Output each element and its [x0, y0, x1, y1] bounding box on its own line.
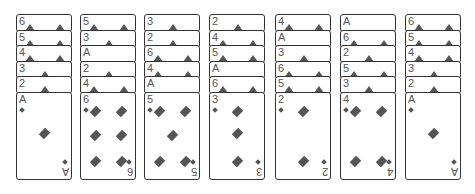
diamond-pip-icon [428, 127, 439, 138]
card-face-up[interactable]: 44 [340, 92, 396, 180]
card-rank: 4 [343, 93, 349, 106]
card-rank: 2 [147, 31, 153, 44]
diamond-pip-icon [350, 155, 361, 166]
diamond-pip-icon [90, 129, 101, 140]
diamond-pip-icon [376, 105, 387, 116]
diamond-pip-icon [167, 129, 178, 140]
diamond-pip-icon [232, 155, 243, 166]
card-rank: 2 [19, 77, 25, 90]
tableau-column-5[interactable]: 4A36522 [275, 14, 331, 180]
card-rank: 2 [278, 93, 284, 106]
diamond-pip-icon [116, 129, 127, 140]
card-face-up[interactable]: 55 [144, 92, 200, 180]
diamond-suit-icon [408, 107, 414, 113]
diamond-pip-icon [90, 155, 101, 166]
card-face-up[interactable]: 66 [80, 92, 136, 180]
card-rank: A [83, 46, 90, 59]
card-rank: 2 [408, 77, 414, 90]
card-rank: 3 [19, 62, 25, 75]
diamond-pip-icon [350, 105, 361, 116]
diamond-pip-icon [232, 105, 243, 116]
card-rank: 2 [212, 15, 218, 28]
card-rank-inverted: 3 [256, 166, 262, 177]
diamond-pip-icon [116, 105, 127, 116]
card-rank: A [19, 93, 26, 106]
diamond-pip-icon [90, 105, 101, 116]
diamond-suit-icon [190, 159, 196, 165]
card-rank-inverted: 6 [127, 166, 133, 177]
diamond-suit-icon [147, 107, 153, 113]
card-rank: 5 [147, 93, 153, 106]
tableau-column-1[interactable]: 65432AA [16, 14, 72, 180]
card-face-up[interactable]: AA [16, 92, 72, 180]
card-rank: A [278, 31, 285, 44]
diamond-suit-icon [386, 159, 392, 165]
card-face-up[interactable]: 22 [275, 92, 331, 180]
diamond-suit-icon [321, 159, 327, 165]
card-rank-inverted: A [451, 166, 458, 177]
diamond-pip-icon [39, 127, 50, 138]
card-rank: A [343, 15, 350, 28]
tableau: 65432AA53A24663264A55245A6334A36522A6253… [0, 0, 475, 194]
diamond-suit-icon [255, 159, 261, 165]
diamond-suit-icon [83, 107, 89, 113]
diamond-suit-icon [62, 159, 68, 165]
card-face-up[interactable]: 33 [209, 92, 265, 180]
tableau-column-7[interactable]: 65432AA [405, 14, 461, 180]
diamond-suit-icon [19, 107, 25, 113]
diamond-suit-icon [451, 159, 457, 165]
diamond-suit-icon [343, 107, 349, 113]
card-rank: A [147, 77, 154, 90]
diamond-pip-icon [298, 155, 309, 166]
diamond-pip-icon [298, 105, 309, 116]
diamond-suit-icon [278, 107, 284, 113]
diamond-pip-icon [154, 105, 165, 116]
card-rank-inverted: A [62, 166, 69, 177]
card-rank: 3 [408, 62, 414, 75]
card-rank-inverted: 4 [387, 166, 393, 177]
diamond-pip-icon [232, 127, 243, 138]
card-rank-inverted: 5 [191, 166, 197, 177]
tableau-column-2[interactable]: 53A2466 [80, 14, 136, 180]
card-rank: 3 [212, 93, 218, 106]
diamond-pip-icon [180, 105, 191, 116]
card-rank: 2 [343, 46, 349, 59]
diamond-suit-icon [126, 159, 132, 165]
card-face-up[interactable]: AA [405, 92, 461, 180]
card-rank: 3 [147, 15, 153, 28]
card-rank: 3 [343, 77, 349, 90]
card-rank: 2 [83, 62, 89, 75]
diamond-pip-icon [154, 155, 165, 166]
card-rank: 6 [83, 93, 89, 106]
diamond-suit-icon [212, 107, 218, 113]
card-rank: 3 [83, 31, 89, 44]
card-rank-inverted: 2 [322, 166, 328, 177]
card-rank: A [408, 93, 415, 106]
tableau-column-6[interactable]: A625344 [340, 14, 396, 180]
card-rank: 3 [278, 46, 284, 59]
tableau-column-3[interactable]: 3264A55 [144, 14, 200, 180]
card-rank: A [212, 62, 219, 75]
tableau-column-4[interactable]: 245A633 [209, 14, 265, 180]
